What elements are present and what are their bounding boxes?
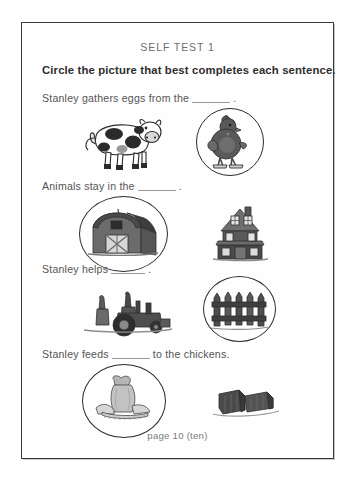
question-4-blank[interactable] [112, 348, 150, 359]
page-border-frame [21, 22, 334, 459]
question-1-line: Stanley gathers eggs from the. [42, 92, 236, 104]
cow-illustration [76, 112, 168, 174]
question-2-text-before: Animals stay in the [42, 180, 135, 192]
house-illustration [213, 203, 269, 265]
question-1-blank[interactable] [192, 92, 230, 103]
page-title: SELF TEST 1 [0, 41, 355, 53]
question-4-line: Stanley feedsto the chickens. [42, 348, 230, 360]
question-4-text-after: to the chickens. [153, 348, 230, 360]
circle-answer-hen [196, 108, 264, 176]
option-tractor[interactable] [78, 287, 174, 341]
worksheet-page: SELF TEST 1 Circle the picture that best… [0, 0, 355, 480]
question-3-line: Stanley helps. [42, 263, 151, 275]
circle-answer-barn [79, 196, 168, 272]
question-4-text-before: Stanley feeds [42, 348, 109, 360]
option-hay-bales[interactable] [211, 382, 283, 422]
question-2-text-after: . [179, 180, 182, 192]
question-2-blank[interactable] [138, 180, 176, 191]
hay-bales-illustration [211, 382, 283, 422]
option-cow[interactable] [76, 112, 168, 174]
question-3-text-after: . [148, 263, 151, 275]
tractor-illustration [78, 287, 174, 341]
question-1-text-after: . [233, 92, 236, 104]
circle-answer-fence [203, 276, 276, 342]
option-house[interactable] [213, 203, 269, 265]
page-footer: page 10 (ten) [0, 430, 355, 441]
question-3-text-before: Stanley helps [42, 263, 108, 275]
question-1-text-before: Stanley gathers eggs from the [42, 92, 189, 104]
question-3-blank[interactable] [111, 263, 145, 274]
circle-answer-feed-sack [82, 364, 166, 438]
question-2-line: Animals stay in the. [42, 180, 182, 192]
instruction-text: Circle the picture that best completes e… [42, 64, 336, 76]
